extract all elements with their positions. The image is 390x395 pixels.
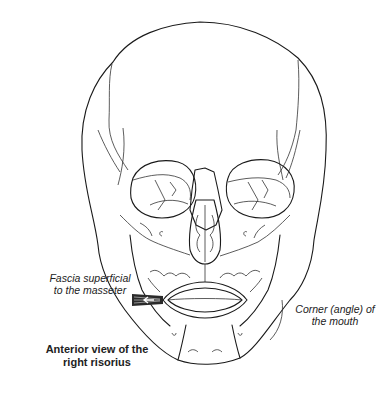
label-corner-of-mouth: Corner (angle) of the mouth (280, 303, 390, 327)
label-fascia-superficial-to-masseter: Fascia superficial to the masseter (30, 272, 150, 296)
nasal-bones (190, 168, 222, 230)
caption-line: Anterior view of the (32, 343, 162, 356)
mouth-lips (163, 282, 247, 318)
label-line: Fascia superficial (30, 272, 150, 284)
lip-line (168, 299, 242, 301)
figure-caption: Anterior view of the right risorius (32, 343, 162, 369)
label-line: to the masseter (30, 284, 150, 296)
right-orbit (226, 160, 294, 218)
label-line: the mouth (280, 315, 390, 327)
skull-diagram: Fascia superficial to the masseter Corne… (0, 0, 390, 395)
caption-line: right risorius (32, 356, 162, 369)
chin (178, 325, 240, 360)
skull-illustration (0, 0, 390, 395)
label-line: Corner (angle) of (280, 303, 390, 315)
right-temporal-suture (278, 60, 299, 175)
left-temporal-suture (109, 64, 128, 170)
left-orbit (131, 161, 196, 218)
